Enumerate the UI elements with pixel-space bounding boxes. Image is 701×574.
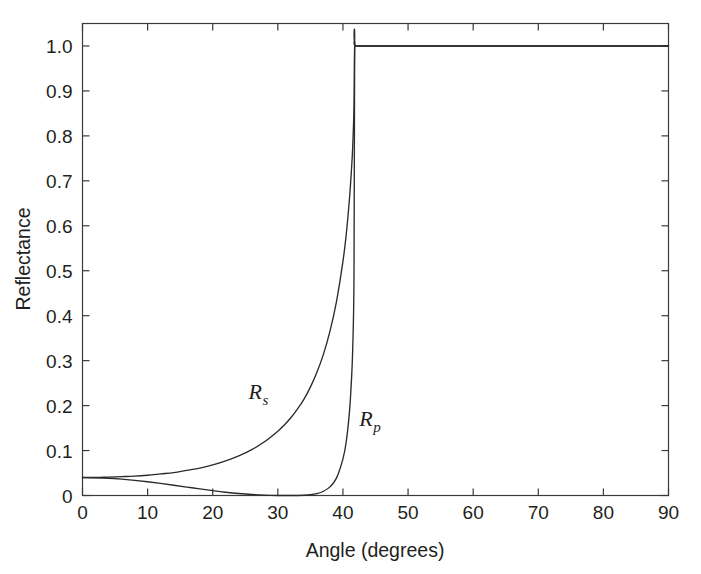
x-axis-title: Angle (degrees): [306, 539, 445, 561]
reflectance-plot-svg: 0102030405060708090 00.10.20.30.40.50.60…: [0, 0, 701, 574]
y-tick-label: 0.6: [46, 216, 72, 237]
y-tick-label: 0: [62, 486, 73, 507]
x-tick-label: 90: [658, 502, 679, 523]
x-tick-label: 70: [528, 502, 549, 523]
y-tick-label: 0.8: [46, 126, 72, 147]
x-tick-label: 50: [397, 502, 418, 523]
y-tick-label: 0.1: [46, 441, 72, 462]
y-tick-label: 1.0: [46, 36, 72, 57]
x-tick-label: 30: [267, 502, 288, 523]
x-tick-label: 40: [332, 502, 353, 523]
x-tick-label: 60: [463, 502, 484, 523]
y-tick-label: 0.9: [46, 81, 72, 102]
y-tick-label: 0.3: [46, 351, 72, 372]
y-tick-label: 0.7: [46, 171, 72, 192]
x-tick-label: 20: [202, 502, 223, 523]
x-tick-label: 10: [137, 502, 158, 523]
y-tick-label: 0.2: [46, 396, 72, 417]
x-tick-label: 80: [593, 502, 614, 523]
chart-background: [0, 0, 701, 574]
y-tick-label: 0.4: [46, 306, 73, 327]
x-tick-label: 0: [77, 502, 88, 523]
reflectance-chart-figure: 0102030405060708090 00.10.20.30.40.50.60…: [0, 0, 701, 574]
y-axis-title: Reflectance: [12, 208, 34, 311]
y-tick-label: 0.5: [46, 261, 72, 282]
